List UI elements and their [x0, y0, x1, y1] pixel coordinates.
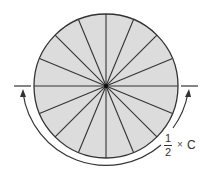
circumference-variable: C [187, 138, 196, 152]
fraction-label: 1 2 [162, 133, 174, 158]
right-arrowhead-icon [185, 89, 191, 97]
left-arrowhead-icon [20, 89, 26, 97]
circle-diagram [0, 0, 207, 183]
fraction-denominator: 2 [165, 146, 171, 158]
center-point [104, 84, 108, 88]
times-operator: × [177, 139, 183, 150]
fraction-numerator: 1 [165, 132, 171, 144]
